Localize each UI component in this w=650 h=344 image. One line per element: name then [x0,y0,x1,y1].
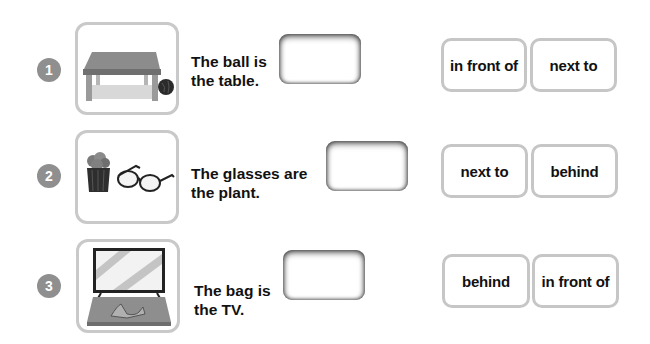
item-picture-frame [76,239,180,333]
exercise-item-3: 3 The bag is the TV. behind in front of [0,230,650,344]
answer-drop-box[interactable] [279,34,361,84]
item-number-badge: 1 [37,58,61,82]
sentence-line-1: The glasses are [191,164,307,183]
option-in-front-of[interactable]: in front of [441,38,527,92]
item-number-badge: 3 [37,274,61,298]
option-behind[interactable]: behind [531,144,618,198]
table-and-ball-icon [78,25,176,112]
sentence: The glasses are the plant. [191,164,307,202]
exercise-item-2: 2 The glasses are the plant. next to beh… [0,120,650,230]
option-behind[interactable]: behind [442,254,530,308]
sentence: The ball is the table. [191,52,267,90]
item-number-badge: 2 [37,164,61,188]
sentence-line-1: The ball is [191,52,267,71]
plant-and-glasses-icon [78,133,176,221]
sentence-line-2: the plant. [191,183,307,202]
tv-and-bag-icon [79,242,177,330]
option-next-to[interactable]: next to [441,144,528,198]
answer-drop-box[interactable] [283,250,365,300]
sentence-line-2: the table. [191,71,267,90]
option-next-to[interactable]: next to [530,38,617,92]
option-in-front-of[interactable]: in front of [532,254,619,308]
item-picture-frame [75,130,179,224]
answer-drop-box[interactable] [326,141,408,191]
item-picture-frame [75,22,179,115]
sentence-line-1: The bag is [194,281,271,300]
exercise-item-1: 1 The ball is the table. in front of nex… [0,0,650,115]
sentence-line-2: the TV. [194,300,271,319]
sentence: The bag is the TV. [194,281,271,319]
